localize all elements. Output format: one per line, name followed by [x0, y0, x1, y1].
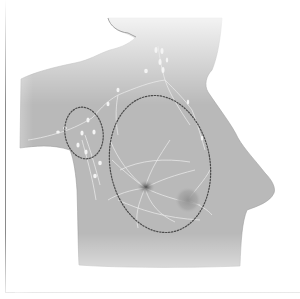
body-silhouette	[0, 0, 300, 299]
nipple-areola	[137, 180, 155, 194]
tumor-mass	[175, 187, 201, 213]
breast-anatomy-illustration	[0, 0, 300, 299]
